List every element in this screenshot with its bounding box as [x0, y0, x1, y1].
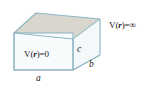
label-potential-inside-suffix: )=0 [37, 49, 49, 59]
label-dimension-c: c [77, 45, 81, 55]
label-potential-outside-suffix: )=∞ [122, 20, 136, 30]
label-potential-outside: V(r)=∞ [109, 21, 136, 30]
label-dimension-a: a [36, 74, 41, 84]
figure-container: V(r)=0 V(r)=∞ a b c [0, 0, 156, 92]
label-potential-outside-prefix: V( [109, 20, 118, 30]
label-dimension-b: b [89, 60, 94, 70]
label-potential-inside: V(r)=0 [24, 50, 49, 59]
label-potential-inside-prefix: V( [24, 49, 33, 59]
